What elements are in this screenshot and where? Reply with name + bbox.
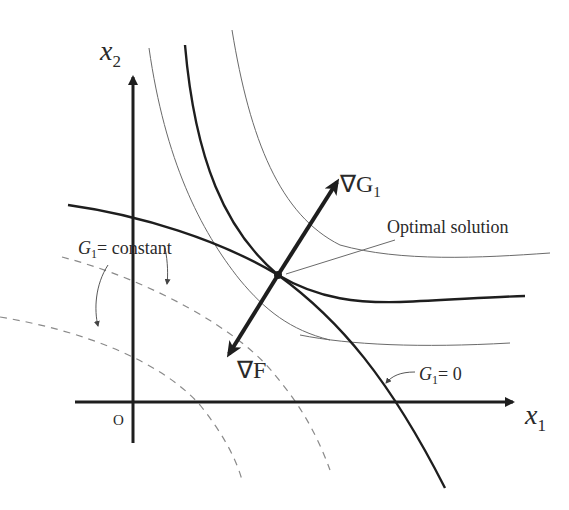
g-zero-leader: [386, 372, 415, 383]
dashed-curve-lower: [0, 317, 242, 480]
g1-constant-label: G1= constant: [78, 238, 172, 261]
origin-label: O: [113, 412, 124, 428]
grad-f-arrow: [229, 275, 278, 354]
optimal-solution-label: Optimal solution: [387, 217, 509, 237]
grad-f-label: ∇F: [236, 357, 266, 383]
dashed-curve-upper: [62, 257, 330, 470]
optimization-diagram: x2 x1 O ∇G1 ∇F Optimal solution G1= cons…: [0, 0, 569, 510]
optimal-point: [274, 271, 282, 279]
thin-contour-left: [149, 48, 330, 340]
x2-axis-label: x2: [99, 35, 121, 71]
g1-zero-label: G1= 0: [419, 364, 462, 387]
grad-g1-label: ∇G1: [339, 171, 381, 200]
thin-contour-lower: [300, 335, 510, 345]
x1-axis-label: x1: [524, 399, 546, 435]
g-const-leader-lower: [96, 265, 108, 326]
g1-constant-dashed-curves: [0, 257, 330, 480]
